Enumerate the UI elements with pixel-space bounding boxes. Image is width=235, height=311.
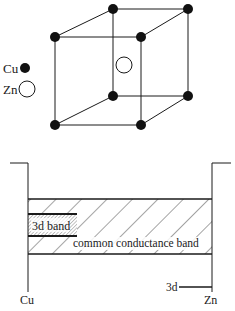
- cu-marker-icon: [20, 63, 30, 73]
- cu-potential-wall: [10, 163, 28, 292]
- band-diagram: 3d band common conductance band 3d Cu Zn: [10, 163, 231, 307]
- zn-label: Zn: [204, 293, 217, 307]
- zn-marker-icon: [19, 81, 35, 97]
- zn-atom: [116, 57, 132, 73]
- cu-atom: [50, 32, 60, 42]
- cu-atom: [136, 32, 146, 42]
- cu-atom: [108, 4, 118, 14]
- front-face: [55, 37, 141, 125]
- legend: Cu Zn: [3, 61, 35, 97]
- zn-potential-wall: [212, 163, 231, 292]
- cu-atom: [108, 91, 118, 101]
- cu-atom: [183, 91, 193, 101]
- legend-cu-label: Cu: [3, 61, 19, 76]
- band-3d-label: 3d band: [32, 219, 70, 233]
- diagram-canvas: Cu Zn 3d band common conductance band 3d…: [0, 0, 235, 311]
- zn-3d-label: 3d: [166, 281, 178, 293]
- cu-atom: [183, 4, 193, 14]
- cu-atom: [136, 120, 146, 130]
- legend-zn-label: Zn: [3, 82, 18, 97]
- back-face: [113, 9, 188, 96]
- cu-label: Cu: [20, 293, 34, 307]
- cu-atom: [50, 120, 60, 130]
- common-band-label: common conductance band: [73, 237, 199, 249]
